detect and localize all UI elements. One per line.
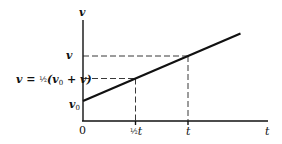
y-axis-label: v — [79, 6, 86, 19]
vavg-lhs: v = — [16, 73, 39, 86]
x-label-half-t: ½t — [130, 125, 143, 138]
velocity-time-diagram: v t 0 v v = ½(v0 + v) v0 ½t t — [0, 0, 282, 144]
y-label-v0: v0 — [69, 98, 80, 112]
x-axis-label: t — [265, 125, 270, 138]
svg-text:½t: ½t — [130, 125, 143, 138]
v0-sub: 0 — [75, 104, 79, 112]
velocity-line — [83, 34, 241, 102]
svg-text:v0: v0 — [69, 98, 80, 112]
y-label-v-average: v = ½(v0 + v) — [16, 73, 92, 87]
y-label-v: v — [66, 49, 73, 62]
vavg-tail: + v) — [63, 73, 91, 86]
svg-text:v = ½(v0 + v): v = ½(v0 + v) — [16, 73, 92, 87]
x-label-t: t — [186, 125, 191, 138]
origin-label: 0 — [79, 124, 86, 137]
half-t-t: t — [138, 125, 143, 138]
vavg-rhs: (v — [47, 73, 59, 86]
